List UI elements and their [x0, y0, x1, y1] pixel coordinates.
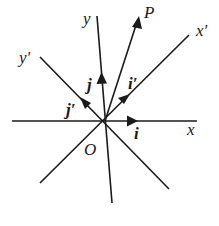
p-vector-arrow — [132, 16, 142, 29]
j-vector-arrow — [97, 72, 108, 84]
x-prime-axis — [40, 35, 189, 183]
y-prime-axis-label: y′ — [17, 48, 31, 67]
x-prime-axis-label: x′ — [195, 21, 208, 40]
y-prime-axis — [40, 57, 169, 189]
y-axis — [97, 16, 112, 203]
j-vector-label: j — [84, 75, 92, 94]
point-p-label: P — [143, 3, 154, 22]
x-axis-label: x — [186, 120, 195, 139]
op-vector — [105, 22, 137, 121]
i-vector-label: i — [134, 124, 139, 143]
coordinate-diagram: x i y j x′ i′ y′ j′ O P — [0, 0, 219, 226]
origin-label: O — [84, 140, 96, 159]
y-axis-label: y — [81, 9, 91, 28]
i-prime-vector-label: i′ — [128, 74, 138, 93]
i-prime-vector-arrow — [118, 94, 130, 104]
j-prime-vector-label: j′ — [63, 100, 76, 119]
